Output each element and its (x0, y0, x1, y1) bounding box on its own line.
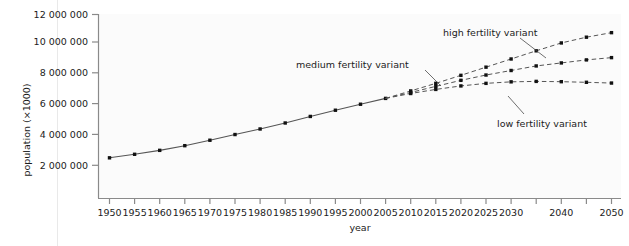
data-point-marker (610, 81, 613, 84)
x-tick-label: 2040 (549, 207, 573, 218)
chart-canvas: 2 000 000 4 000 000 6 000 000 8 000 000 … (0, 0, 629, 246)
x-tick-label: 2000 (348, 207, 372, 218)
y-tick-label: 10 000 000 (34, 36, 88, 47)
data-point-marker (133, 153, 136, 156)
y-tick-label: 4 000 000 (40, 129, 88, 140)
data-point-marker (560, 80, 563, 83)
data-point-marker (610, 56, 613, 59)
data-point-marker (459, 74, 462, 77)
x-tick-label: 1950 (97, 207, 121, 218)
data-point-marker (484, 82, 487, 85)
data-point-marker (183, 144, 186, 147)
data-point-marker (610, 31, 613, 34)
x-tick-label: 1965 (173, 207, 197, 218)
data-point-marker (309, 115, 312, 118)
x-tick-label: 2015 (424, 207, 448, 218)
x-tick-label: 2025 (474, 207, 498, 218)
y-tick-label: 8 000 000 (40, 67, 88, 78)
data-point-marker (434, 85, 437, 88)
annotation-high-fertility: high fertility variant (443, 27, 538, 38)
data-point-marker (509, 80, 512, 83)
data-point-marker (484, 65, 487, 68)
x-tick-label: 1975 (223, 207, 247, 218)
y-tick-label: 6 000 000 (40, 98, 88, 109)
x-axis-tick-labels: 1950 1955 1960 1965 1970 1975 1980 1985 … (97, 207, 623, 218)
data-point-marker (434, 88, 437, 91)
x-tick-label: 1960 (148, 207, 172, 218)
data-point-marker (585, 58, 588, 61)
x-tick-label: 2005 (374, 207, 398, 218)
x-tick-label: 2020 (449, 207, 473, 218)
data-point-marker (258, 127, 261, 130)
data-point-marker (509, 57, 512, 60)
y-axis-tick-labels: 2 000 000 4 000 000 6 000 000 8 000 000 … (34, 9, 88, 171)
data-point-marker (535, 80, 538, 83)
x-axis-title: year (349, 222, 370, 233)
x-tick-label: 1980 (248, 207, 272, 218)
data-point-marker (233, 133, 236, 136)
data-point-marker (158, 149, 161, 152)
data-point-marker (409, 92, 412, 95)
y-axis-ticks (92, 15, 98, 166)
x-tick-label: 2010 (399, 207, 423, 218)
x-tick-label: 1955 (123, 207, 147, 218)
data-point-marker (334, 109, 337, 112)
x-tick-label: 1985 (273, 207, 297, 218)
population-projection-chart: 2 000 000 4 000 000 6 000 000 8 000 000 … (0, 0, 629, 246)
data-point-marker (535, 64, 538, 67)
data-point-marker (459, 84, 462, 87)
plot-area-background (98, 14, 621, 198)
annotation-low-fertility: low fertility variant (497, 118, 587, 129)
data-point-marker (284, 121, 287, 124)
y-axis-title: population (×1000) (21, 83, 32, 176)
data-point-marker (560, 41, 563, 44)
data-point-marker (208, 139, 211, 142)
y-tick-label: 12 000 000 (34, 9, 88, 20)
x-tick-label: 1970 (198, 207, 222, 218)
data-point-marker (359, 103, 362, 106)
x-tick-label: 2030 (499, 207, 523, 218)
x-tick-label: 1995 (323, 207, 347, 218)
data-point-marker (459, 79, 462, 82)
data-point-marker (585, 36, 588, 39)
annotation-medium-fertility: medium fertility variant (296, 59, 409, 70)
x-axis-ticks (110, 198, 612, 204)
data-point-marker (560, 61, 563, 64)
x-tick-label: 2050 (599, 207, 623, 218)
y-tick-label: 2 000 000 (40, 160, 88, 171)
data-point-marker (484, 73, 487, 76)
data-point-marker (585, 81, 588, 84)
x-tick-label: 1990 (298, 207, 322, 218)
data-point-marker (509, 69, 512, 72)
data-point-marker (108, 156, 111, 159)
